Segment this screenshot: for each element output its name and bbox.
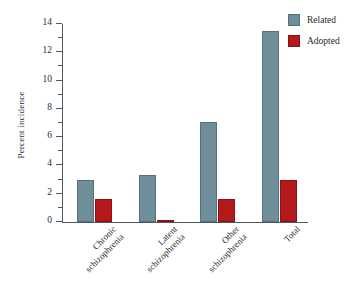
legend-item: Related: [288, 12, 360, 28]
y-tick-label: 8: [47, 101, 52, 114]
y-tick-label: 4: [47, 157, 52, 170]
bar-related: [139, 175, 156, 222]
x-axis-line: [62, 222, 308, 223]
legend-label: Related: [307, 15, 336, 25]
bar-chart-figure: Percent incidence 02468101214 Chronic sc…: [0, 0, 364, 300]
bar-adopted: [157, 220, 174, 222]
x-axis-category-labels: Chronic schizophreniaLatent schizophreni…: [62, 224, 322, 300]
legend-swatch-icon: [288, 35, 300, 47]
bar-adopted: [218, 199, 235, 222]
bar-group: [139, 24, 174, 222]
bar-adopted: [280, 180, 297, 222]
y-tick-label: 6: [47, 129, 52, 142]
bar-groups: [62, 24, 308, 222]
bar-related: [200, 122, 217, 222]
bar-related: [77, 180, 94, 222]
y-tick-label: 2: [47, 186, 52, 199]
legend-swatch-icon: [288, 14, 300, 26]
bar-group: [77, 24, 112, 222]
bar-related: [262, 31, 279, 222]
bar-group: [200, 24, 235, 222]
y-tick-label: 10: [43, 73, 53, 86]
legend-item: Adopted: [288, 33, 360, 49]
plot-area: 02468101214: [62, 24, 307, 222]
y-tick-label: 0: [47, 214, 52, 227]
chart-legend: RelatedAdopted: [288, 12, 360, 54]
y-tick-label: 12: [43, 44, 53, 57]
y-tick-label: 14: [43, 16, 53, 29]
legend-label: Adopted: [307, 36, 340, 46]
bar-adopted: [95, 199, 112, 222]
y-axis-title: Percent incidence: [16, 60, 30, 190]
